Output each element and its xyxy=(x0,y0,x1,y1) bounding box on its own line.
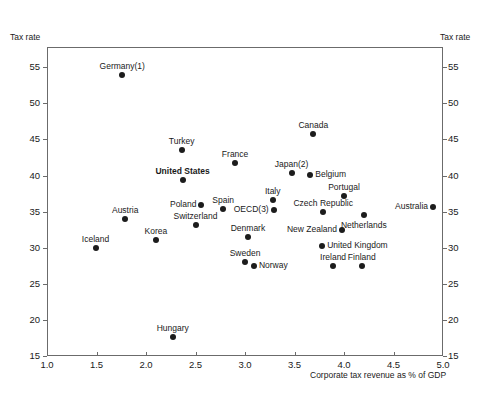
x-axis-title: Corporate tax revenue as % of GDP xyxy=(310,370,446,380)
data-point-label: United Kingdom xyxy=(327,240,387,250)
y-tick-label-right: 40 xyxy=(448,171,470,181)
x-tick-label: 3.0 xyxy=(230,359,260,370)
data-point[interactable] xyxy=(251,263,257,269)
y-tick-mark-right xyxy=(443,212,447,213)
data-point-label: Germany(1) xyxy=(100,61,145,71)
y-tick-label-left: 30 xyxy=(18,243,40,253)
data-point[interactable] xyxy=(170,334,176,340)
y-tick-mark-left xyxy=(43,320,47,321)
scatter-chart: Tax rate Tax rate Corporate tax revenue … xyxy=(0,0,490,398)
y-tick-mark-right xyxy=(443,176,447,177)
x-tick-label: 1.5 xyxy=(82,359,112,370)
data-point-label: Poland xyxy=(170,199,196,209)
data-point[interactable] xyxy=(430,204,436,210)
data-point-label: Austria xyxy=(112,205,138,215)
y-tick-label-right: 30 xyxy=(448,243,470,253)
x-tick-label: 4.0 xyxy=(329,359,359,370)
data-point[interactable] xyxy=(330,263,336,269)
x-tick-label: 5.0 xyxy=(428,359,458,370)
y-axis-title-right: Tax rate xyxy=(440,32,470,42)
data-point[interactable] xyxy=(122,216,128,222)
y-tick-label-right: 20 xyxy=(448,315,470,325)
data-point-label: Italy xyxy=(265,186,281,196)
y-tick-mark-left xyxy=(43,176,47,177)
data-point[interactable] xyxy=(361,212,367,218)
x-tick-mark xyxy=(146,352,147,356)
data-point[interactable] xyxy=(93,245,99,251)
data-point-label: France xyxy=(222,149,248,159)
data-point-label: OECD(3) xyxy=(234,204,269,214)
y-tick-label-left: 40 xyxy=(18,171,40,181)
x-tick-mark xyxy=(97,352,98,356)
y-tick-mark-right xyxy=(443,103,447,104)
x-tick-mark xyxy=(245,352,246,356)
data-point-label: United States xyxy=(155,166,209,176)
data-point-label: Australia xyxy=(395,201,428,211)
x-tick-label: 1.0 xyxy=(32,359,62,370)
data-point-label: Ireland xyxy=(320,252,346,262)
data-point-label: Denmark xyxy=(231,223,265,233)
data-point[interactable] xyxy=(179,147,185,153)
data-point-label: Sweden xyxy=(230,248,261,258)
y-tick-label-right: 50 xyxy=(448,98,470,108)
y-tick-label-left: 50 xyxy=(18,98,40,108)
x-tick-mark xyxy=(394,352,395,356)
data-point-label: Portugal xyxy=(328,182,360,192)
y-tick-label-left: 55 xyxy=(18,62,40,72)
y-tick-label-left: 35 xyxy=(18,207,40,217)
y-tick-mark-left xyxy=(43,284,47,285)
x-tick-mark xyxy=(344,352,345,356)
y-tick-mark-left xyxy=(43,67,47,68)
y-tick-label-right: 35 xyxy=(448,207,470,217)
data-point-label: Finland xyxy=(348,252,376,262)
y-tick-label-left: 25 xyxy=(18,279,40,289)
y-tick-mark-right xyxy=(443,139,447,140)
x-tick-mark xyxy=(196,352,197,356)
data-point[interactable] xyxy=(359,263,365,269)
x-tick-label: 3.5 xyxy=(280,359,310,370)
y-tick-mark-right xyxy=(443,320,447,321)
x-tick-label: 2.5 xyxy=(181,359,211,370)
y-axis-title-left: Tax rate xyxy=(10,32,40,42)
data-point[interactable] xyxy=(319,243,325,249)
data-point-label: Netherlands xyxy=(341,220,387,230)
data-point[interactable] xyxy=(245,234,251,240)
data-point-label: Czech Republic xyxy=(293,198,353,208)
y-tick-label-left: 45 xyxy=(18,134,40,144)
y-tick-mark-right xyxy=(443,284,447,285)
data-point-label: Korea xyxy=(145,226,168,236)
data-point-label: Japan(2) xyxy=(275,159,309,169)
data-point[interactable] xyxy=(289,170,295,176)
data-point-label: Iceland xyxy=(82,234,109,244)
data-point-label: Hungary xyxy=(157,323,189,333)
data-point-label: Turkey xyxy=(169,136,195,146)
y-tick-mark-right xyxy=(443,248,447,249)
y-tick-label-right: 25 xyxy=(448,279,470,289)
x-tick-mark xyxy=(295,352,296,356)
y-tick-mark-left xyxy=(43,212,47,213)
data-point-label: Spain xyxy=(212,195,234,205)
data-point[interactable] xyxy=(270,197,276,203)
y-tick-mark-left xyxy=(43,139,47,140)
data-point-label: Norway xyxy=(259,260,288,270)
y-tick-mark-right xyxy=(443,67,447,68)
data-point-label: Canada xyxy=(298,120,328,130)
data-point[interactable] xyxy=(193,222,199,228)
y-tick-label-left: 20 xyxy=(18,315,40,325)
y-tick-mark-left xyxy=(43,356,47,357)
y-tick-mark-left xyxy=(43,103,47,104)
data-point-label: New Zealand xyxy=(287,224,337,234)
data-point-label: Belgium xyxy=(315,169,346,179)
data-point[interactable] xyxy=(339,227,345,233)
y-tick-label-right: 45 xyxy=(448,134,470,144)
data-point-label: Switzerland xyxy=(174,211,218,221)
y-tick-mark-right xyxy=(443,356,447,357)
x-tick-label: 4.5 xyxy=(379,359,409,370)
y-tick-mark-left xyxy=(43,248,47,249)
data-point[interactable] xyxy=(180,177,186,183)
data-point[interactable] xyxy=(310,131,316,137)
plot-area xyxy=(47,47,443,356)
x-tick-label: 2.0 xyxy=(131,359,161,370)
y-tick-label-right: 55 xyxy=(448,62,470,72)
data-point[interactable] xyxy=(271,207,277,213)
